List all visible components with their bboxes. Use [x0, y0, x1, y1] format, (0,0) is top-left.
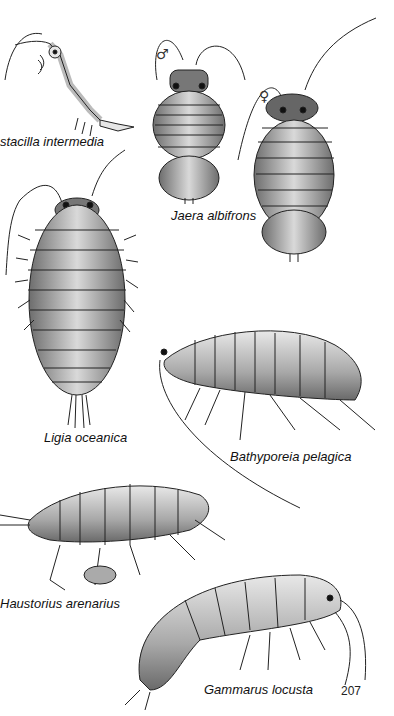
label-bathyporeia-pelagica: Bathyporeia pelagica — [230, 449, 351, 464]
label-haustorius-arenarius: Haustorius arenarius — [0, 596, 120, 611]
haustorius-drawing — [0, 484, 225, 590]
female-symbol: ♀ — [259, 88, 269, 104]
label-ligia-oceanica: Ligia oceanica — [44, 430, 127, 445]
label-astacilla-intermedia: stacilla intermedia — [0, 134, 104, 149]
male-symbol: ♂ — [156, 46, 169, 62]
label-gammarus-locusta: Gammarus locusta — [204, 682, 313, 697]
bathyporeia-drawing — [160, 331, 375, 508]
ligia-drawing — [6, 150, 138, 428]
illustration-plate: ♂ ♀ stacilla intermedia Jaera albifrons … — [0, 0, 394, 716]
page-number: 207 — [341, 684, 361, 698]
jaera-female-drawing — [238, 18, 376, 262]
jaera-male-drawing — [153, 40, 245, 204]
astacilla-drawing — [5, 33, 134, 136]
label-jaera-albifrons: Jaera albifrons — [171, 208, 256, 223]
